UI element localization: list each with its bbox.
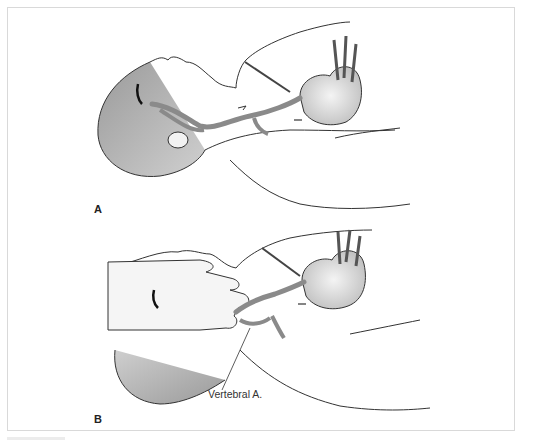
callout-leader xyxy=(222,328,250,390)
panel-a: A xyxy=(0,0,536,220)
panel-a-illustration xyxy=(0,0,536,220)
callout-vertebral-artery: Vertebral A. xyxy=(208,388,262,400)
panel-label-b: B xyxy=(94,413,102,425)
panel-label-a: A xyxy=(94,203,102,215)
examiner-hand xyxy=(108,260,249,330)
panel-b: Vertebral A. B xyxy=(0,220,536,435)
needle xyxy=(245,62,290,92)
needle xyxy=(262,248,300,276)
panel-b-illustration xyxy=(0,220,536,435)
ear xyxy=(168,132,188,148)
footer-strip xyxy=(7,437,65,440)
